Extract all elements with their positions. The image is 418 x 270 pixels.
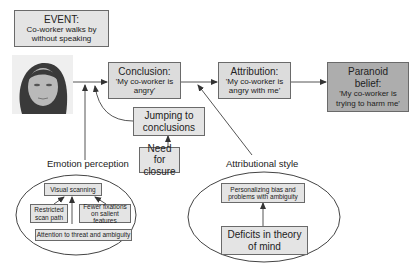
fewer-fixations-box: Fewer fixations on salient features xyxy=(79,204,131,223)
fewer-text: Fewer fixations on salient features xyxy=(80,203,130,224)
personalizing-bias-box: Personalizing bias and problems with amb… xyxy=(221,183,305,203)
restricted-scan-path-box: Restricted scan path xyxy=(30,204,68,223)
emotion-perception-label: Emotion perception xyxy=(47,158,129,169)
deficits-text: Deficits in theory of mind xyxy=(225,229,305,252)
paranoid-title-1: Paranoid xyxy=(348,66,388,78)
visual-scanning-box: Visual scanning xyxy=(44,183,102,196)
personalizing-text: Personalizing bias and problems with amb… xyxy=(223,186,303,200)
jumping-text: Jumping to conclusions xyxy=(136,110,202,133)
attribution-title: Attribution: xyxy=(231,66,279,78)
jumping-to-conclusions-box: Jumping to conclusions xyxy=(133,107,205,136)
conclusion-title: Conclusion: xyxy=(118,66,170,78)
restricted-text: Restricted scan path xyxy=(32,206,66,220)
paranoid-title-2: belief: xyxy=(355,78,382,90)
attention-threat-box: Attention to threat and ambiguity xyxy=(35,229,132,241)
paranoid-text: 'My co-worker is trying to harm me' xyxy=(329,89,407,107)
event-title: EVENT: xyxy=(44,14,79,26)
visual-scanning-text: Visual scanning xyxy=(50,186,95,193)
conclusion-box: Conclusion: 'My co-worker is angry' xyxy=(108,62,181,99)
attribution-box: Attribution: 'My co-worker is angry with… xyxy=(218,62,291,99)
need-for-closure-box: Need for closure xyxy=(139,147,180,173)
event-box: EVENT: Co-worker walks by without speaki… xyxy=(14,10,109,47)
deficits-theory-of-mind-box: Deficits in theory of mind xyxy=(221,226,308,255)
closure-text: Need for closure xyxy=(141,143,179,178)
attention-text: Attention to threat and ambiguity xyxy=(37,231,131,238)
attributional-style-label: Attributional style xyxy=(226,158,298,169)
face-photo xyxy=(12,55,73,114)
attribution-text: 'My co-worker is angry with me' xyxy=(222,77,288,95)
conclusion-text: 'My co-worker is angry' xyxy=(113,77,177,95)
event-text: Co-worker walks by without speaking xyxy=(27,25,97,43)
arrow-restricted-to-scanning xyxy=(54,197,64,204)
paranoid-belief-box: Paranoid belief: 'My co-worker is trying… xyxy=(327,62,409,112)
